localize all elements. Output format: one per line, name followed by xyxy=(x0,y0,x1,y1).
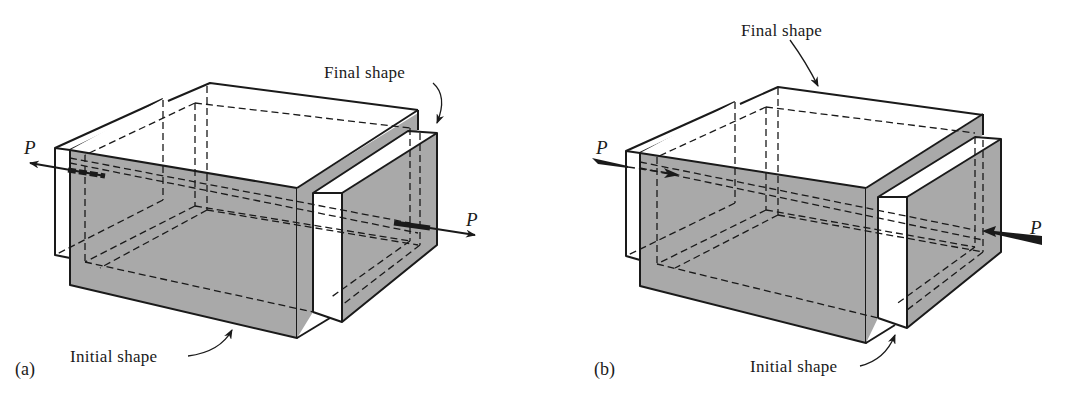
panel-a: P P Final shape Initial shape (a) xyxy=(15,63,478,380)
force-label-right-a: P xyxy=(465,209,478,230)
label-initial-shape-b: Initial shape xyxy=(750,357,837,376)
panel-label-a: (a) xyxy=(15,359,35,380)
label-final-shape-b: Final shape xyxy=(741,21,822,40)
force-label-right-b: P xyxy=(1029,217,1042,238)
deformation-diagram: P P Final shape Initial shape (a) xyxy=(0,0,1085,401)
leader-final-shape-a xyxy=(433,83,442,123)
label-final-shape-a: Final shape xyxy=(324,63,405,82)
force-label-left-a: P xyxy=(23,137,36,158)
panel-label-b: (b) xyxy=(594,359,615,380)
panel-b: P P Final shape Initial shape (b) xyxy=(592,21,1042,380)
leader-initial-shape-a xyxy=(188,330,232,356)
label-initial-shape-a: Initial shape xyxy=(70,347,157,366)
force-label-left-b: P xyxy=(595,137,608,158)
leader-final-shape-b xyxy=(790,40,818,86)
